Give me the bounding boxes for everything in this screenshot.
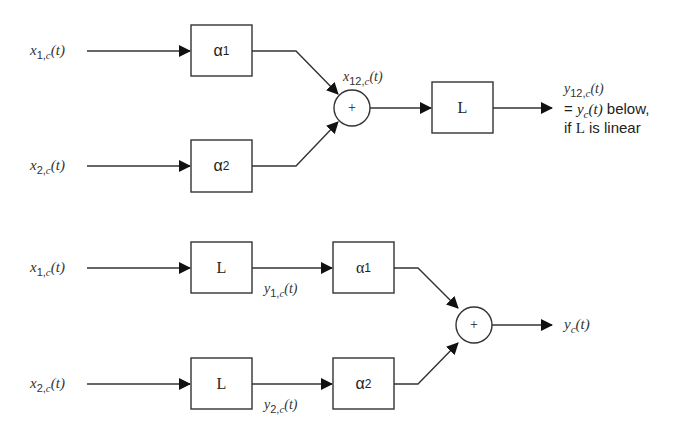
arg: (t) [369, 69, 382, 84]
input-label-x2-top: x2,c(t) [30, 157, 65, 178]
arg: (t) [51, 157, 65, 173]
arg: (t) [284, 281, 297, 296]
alpha-sub: 1 [364, 261, 371, 275]
sum-plus-bottom: + [456, 307, 492, 343]
alpha-symbol: α [214, 42, 223, 60]
sub: 2, [37, 164, 46, 176]
sub: 12, [570, 87, 585, 99]
var: y [564, 316, 571, 332]
arg: (t) [590, 81, 603, 96]
prefix: if [564, 119, 576, 136]
var: y [577, 101, 584, 117]
sub: 12, [349, 75, 364, 87]
alpha-symbol: α [356, 375, 365, 393]
output-label-yc: yc(t) [564, 316, 590, 337]
arg: (t) [51, 42, 65, 58]
sub: 2, [37, 382, 46, 394]
input-label-x1-top: x1,c(t) [30, 42, 65, 63]
suffix: is linear [585, 119, 641, 136]
alpha-symbol: α [356, 259, 364, 277]
arg: (t) [576, 316, 590, 332]
sub: 1, [37, 49, 46, 61]
sum-label-x12: x12,c(t) [343, 69, 383, 89]
alpha-sub: 2 [365, 377, 372, 391]
suffix: below, [603, 100, 650, 117]
output-label-y12: y12,c(t) [564, 81, 604, 101]
arg: (t) [51, 375, 65, 391]
arrow-alpha2-to-sum [252, 122, 338, 166]
prefix: = [564, 100, 577, 117]
sum-plus-top: + [334, 90, 370, 126]
arrow-alpha1-to-sum [252, 51, 338, 94]
alpha1-label-bottom: α1 [333, 242, 394, 293]
alpha-symbol: α [214, 157, 223, 175]
intermediate-label-y2: y2,c(t) [264, 397, 298, 417]
arrow-alpha1-to-sum-bottom [394, 268, 458, 308]
L1-label-bottom: L [191, 242, 252, 293]
output-note-line2: if L is linear [564, 119, 641, 137]
alpha1-label-top: α1 [191, 25, 252, 76]
alpha2-label-bottom: α2 [333, 358, 394, 409]
arrow-alpha2-to-sum-bottom [394, 343, 458, 384]
L2-label-bottom: L [191, 358, 252, 409]
alpha-sub: 2 [223, 159, 230, 173]
L-label-top: L [432, 82, 493, 133]
arg: (t) [51, 259, 65, 275]
arg: (t) [589, 101, 603, 117]
var: x [30, 259, 37, 275]
var: x [30, 375, 37, 391]
alpha2-label-top: α2 [191, 140, 252, 192]
var: x [30, 157, 37, 173]
alpha-sub: 1 [223, 44, 230, 58]
input-label-x1-bottom: x1,c(t) [30, 259, 65, 280]
var: x [30, 42, 37, 58]
arg: (t) [284, 397, 297, 412]
intermediate-label-y1: y1,c(t) [264, 281, 298, 301]
input-label-x2-bottom: x2,c(t) [30, 375, 65, 396]
L: L [576, 120, 585, 136]
sub: 1, [37, 266, 46, 278]
